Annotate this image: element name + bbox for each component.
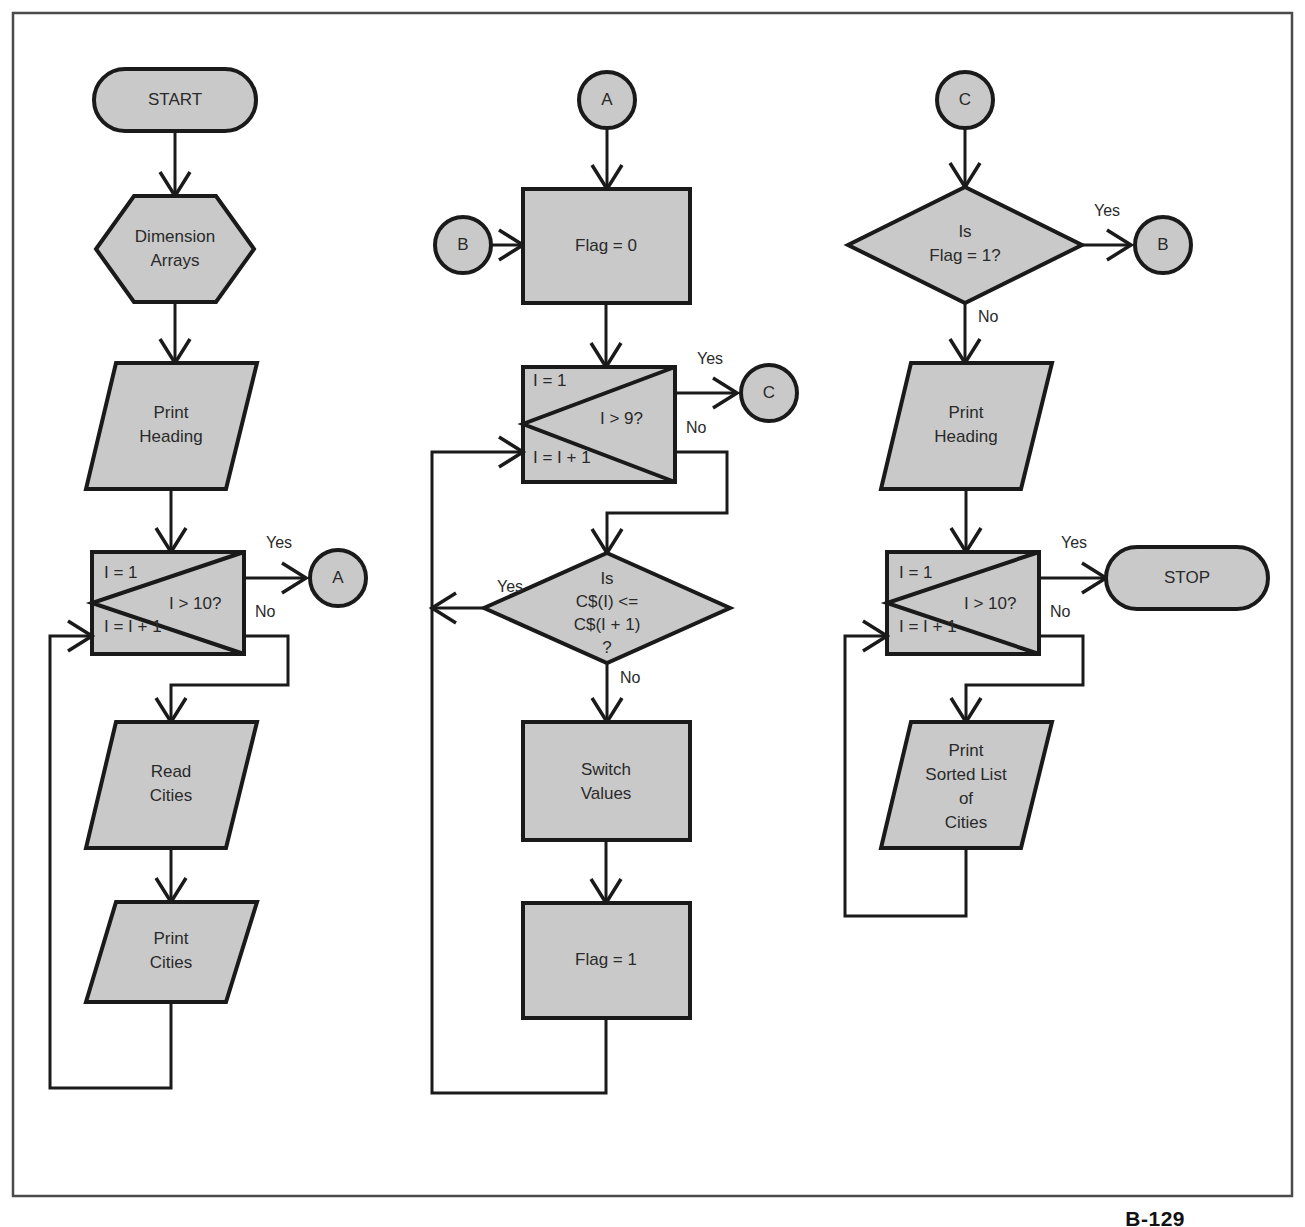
loop3-no-label: No: [1050, 603, 1071, 620]
loop3-yes-label: Yes: [1061, 534, 1087, 551]
compare-decision: Is C$(I) <= C$(I + 1) ?: [484, 553, 730, 663]
flag-zero-process: Flag = 0: [523, 189, 690, 303]
connector-c-in-label: C: [959, 90, 971, 109]
printcities-line2: Cities: [150, 953, 193, 972]
loop-box-1: I = 1 I = I + 1 I > 10?: [92, 552, 244, 654]
loop1-no-label: No: [255, 603, 276, 620]
decision2-line1: Is: [600, 569, 613, 588]
loop2-init: I = 1: [533, 371, 567, 390]
decision2-line4: ?: [602, 638, 611, 657]
loop2-test: I > 9?: [600, 409, 643, 428]
printsorted-line1: Print: [949, 741, 984, 760]
connector-a-out: A: [310, 550, 366, 606]
start-terminal: START: [94, 69, 256, 131]
loop2-no-label: No: [686, 419, 707, 436]
decision2-line3: C$(I + 1): [574, 615, 641, 634]
loop1-init: I = 1: [104, 563, 138, 582]
printheading3-line1: Print: [949, 403, 984, 422]
dimension-line2: Arrays: [150, 251, 199, 270]
readcities-line1: Read: [151, 762, 192, 781]
flag-one-process: Flag = 1: [523, 903, 690, 1018]
printheading-line1: Print: [154, 403, 189, 422]
switch-values-process: Switch Values: [523, 722, 690, 840]
connector-a-in-label: A: [601, 90, 613, 109]
print-heading-io: Print Heading: [86, 363, 257, 489]
loop3-incr: I = I + 1: [899, 617, 957, 636]
flagone-label: Flag = 1: [575, 950, 637, 969]
loop2-incr: I = I + 1: [533, 448, 591, 467]
loop1-test: I > 10?: [169, 594, 221, 613]
connector-c-in: C: [937, 72, 993, 128]
flagzero-label: Flag = 0: [575, 236, 637, 255]
decision2-yes-label: Yes: [497, 578, 523, 595]
printcities-line1: Print: [154, 929, 189, 948]
loop1-yes-label: Yes: [266, 534, 292, 551]
connector-b-out: B: [1135, 217, 1191, 273]
switchvalues-line1: Switch: [581, 760, 631, 779]
conn-loop1-back: [50, 636, 171, 1088]
decision2-line2: C$(I) <=: [576, 592, 638, 611]
loop3-test: I > 10?: [964, 594, 1016, 613]
read-cities-io: Read Cities: [86, 722, 257, 848]
stop-terminal: STOP: [1106, 547, 1268, 609]
stop-label: STOP: [1164, 568, 1210, 587]
connector-b-in: B: [435, 217, 491, 273]
flowchart-page: START Dimension Arrays Print Heading I =…: [0, 0, 1305, 1227]
connector-a-out-label: A: [332, 568, 344, 587]
print-sorted-io: Print Sorted List of Cities: [881, 722, 1052, 848]
print-heading-io-3: Print Heading: [881, 363, 1052, 489]
readcities-line2: Cities: [150, 786, 193, 805]
connector-a-in: A: [579, 72, 635, 128]
decision2-no-label: No: [620, 669, 641, 686]
flowchart-canvas: START Dimension Arrays Print Heading I =…: [0, 0, 1305, 1227]
decision3-line2: Flag = 1?: [929, 246, 1000, 265]
dimension-arrays-process: Dimension Arrays: [96, 196, 254, 302]
print-cities-io: Print Cities: [86, 902, 257, 1002]
printheading-line2: Heading: [139, 427, 202, 446]
page-number: B-129: [1125, 1207, 1185, 1227]
start-label: START: [148, 90, 202, 109]
loop2-yes-label: Yes: [697, 350, 723, 367]
decision3-yes-label: Yes: [1094, 202, 1120, 219]
flag-decision: Is Flag = 1?: [848, 187, 1082, 303]
decision3-line1: Is: [958, 222, 971, 241]
printsorted-line3: of: [959, 789, 973, 808]
connector-c-out-label: C: [763, 383, 775, 402]
decision3-no-label: No: [978, 308, 999, 325]
connector-b-out-label: B: [1157, 235, 1168, 254]
printsorted-line2: Sorted List: [925, 765, 1007, 784]
switchvalues-line2: Values: [581, 784, 632, 803]
loop-box-2: I = 1 I = I + 1 I > 9?: [523, 367, 675, 482]
dimension-line1: Dimension: [135, 227, 215, 246]
conn-loop2-outer-back: [432, 608, 606, 1093]
connector-c-out: C: [741, 365, 797, 421]
loop1-incr: I = I + 1: [104, 617, 162, 636]
loop3-init: I = 1: [899, 563, 933, 582]
connector-b-in-label: B: [457, 235, 468, 254]
printheading3-line2: Heading: [934, 427, 997, 446]
printsorted-line4: Cities: [945, 813, 988, 832]
loop-box-3: I = 1 I = I + 1 I > 10?: [887, 552, 1039, 654]
